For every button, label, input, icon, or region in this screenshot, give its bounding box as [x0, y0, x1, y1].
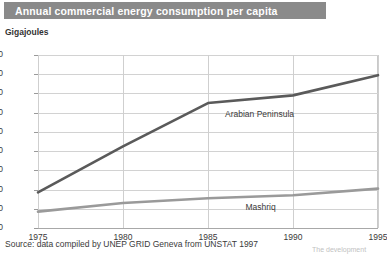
y-tick-mark-180	[34, 55, 38, 56]
y-tick-label-160: 160	[0, 68, 3, 78]
page-title: Annual commercial energy consumption per…	[4, 5, 278, 17]
series-line-arabian-peninsula	[38, 75, 378, 192]
y-tick-mark-80	[34, 151, 38, 152]
series-lines	[38, 55, 378, 228]
series-label-mashriq: Mashriq	[245, 202, 275, 212]
x-tick-label-1995: 1995	[369, 232, 387, 242]
series-line-mashriq	[38, 189, 378, 212]
y-tick-label-120: 120	[0, 107, 3, 117]
source-caption: Source: data compiled by UNEP GRID Genev…	[5, 239, 258, 249]
chart-title-banner: Annual commercial energy consumption per…	[4, 2, 326, 19]
y-tick-mark-100	[34, 132, 38, 133]
y-tick-label-40: 40	[0, 184, 3, 194]
gridline-y-0	[38, 228, 378, 229]
y-tick-mark-40	[34, 190, 38, 191]
y-tick-label-100: 100	[0, 126, 3, 136]
gridline-x-1995	[378, 55, 379, 228]
series-label-arabian-peninsula: Arabian Peninsula	[225, 109, 294, 119]
x-tick-label-1990: 1990	[284, 232, 303, 242]
y-tick-mark-0	[34, 228, 38, 229]
y-tick-label-20: 20	[0, 203, 3, 213]
y-tick-label-180: 180	[0, 49, 3, 59]
y-tick-label-60: 60	[0, 164, 3, 174]
y-tick-mark-20	[34, 209, 38, 210]
y-tick-label-140: 140	[0, 87, 3, 97]
y-tick-mark-60	[34, 170, 38, 171]
y-axis-unit-label: Gigajoules	[5, 27, 48, 37]
corner-note: The development	[312, 246, 386, 255]
y-tick-mark-140	[34, 93, 38, 94]
y-tick-label-80: 80	[0, 145, 3, 155]
y-tick-mark-160	[34, 74, 38, 75]
y-tick-mark-120	[34, 113, 38, 114]
y-tick-label-0: 0	[0, 222, 3, 232]
plot-area: Arabian PeninsulaMashriq	[38, 55, 378, 228]
